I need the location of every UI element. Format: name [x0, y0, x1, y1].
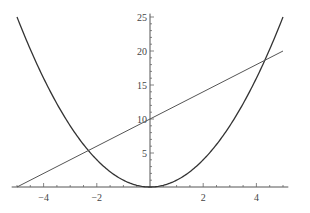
y-tick-label: 20	[137, 46, 147, 57]
function-plot: −4−224510152025	[0, 0, 310, 213]
axes: −4−224510152025	[12, 12, 289, 204]
y-tick-label: 15	[137, 80, 147, 91]
y-tick-label: 25	[137, 12, 147, 23]
x-tick-label: −2	[91, 192, 102, 203]
x-tick-label: −4	[38, 192, 49, 203]
y-tick-label: 5	[142, 148, 147, 159]
x-tick-label: 2	[201, 192, 206, 203]
x-tick-label: 4	[254, 192, 259, 203]
